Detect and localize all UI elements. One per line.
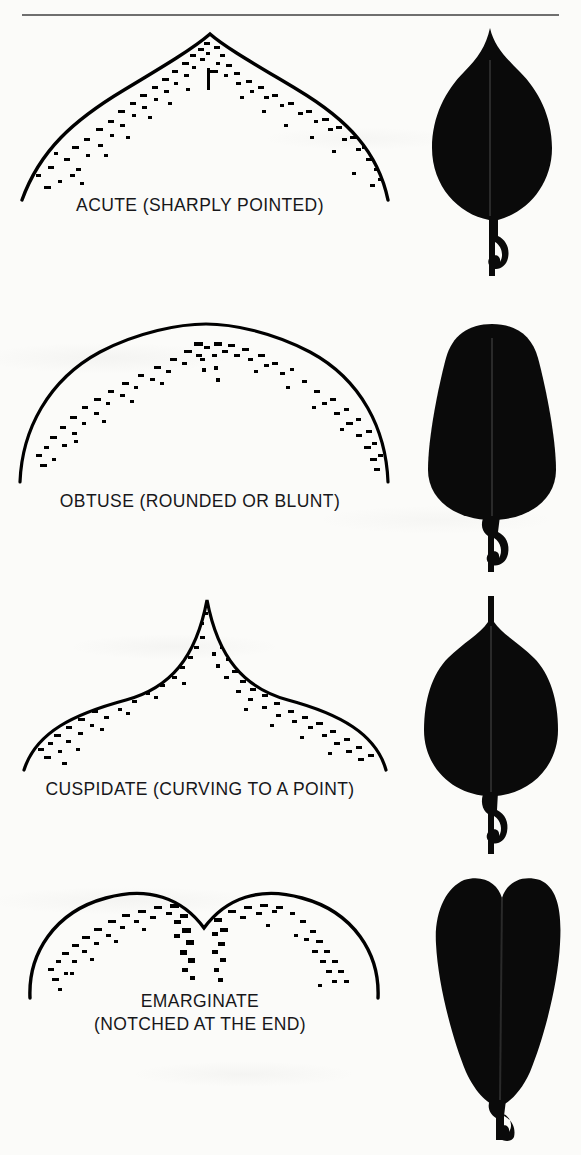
caption-cuspidate-line-1: CUSPIDATE (CURVING TO A POINT) (0, 778, 400, 801)
obtuse-apex-diagram (14, 314, 394, 484)
caption-emarginate-line-1: EMARGINATE (0, 990, 400, 1013)
caption-obtuse-line-1: OBTUSE (ROUNDED OR BLUNT) (0, 490, 400, 513)
figure-row-obtuse: OBTUSE (ROUNDED OR BLUNT) (0, 314, 581, 594)
cuspidate-apex-diagram (14, 596, 394, 774)
figure-row-acute: ACUTE (SHARPLY POINTED) (0, 24, 581, 304)
caption-acute: ACUTE (SHARPLY POINTED) (0, 194, 400, 217)
obtuse-leaf-silhouette (412, 314, 572, 576)
caption-emarginate: EMARGINATE (NOTCHED AT THE END) (0, 990, 400, 1036)
caption-obtuse: OBTUSE (ROUNDED OR BLUNT) (0, 490, 400, 513)
caption-emarginate-line-2: (NOTCHED AT THE END) (0, 1013, 400, 1036)
leaf-apex-reference-page: ACUTE (SHARPLY POINTED) (0, 0, 581, 1155)
figure-row-emarginate: EMARGINATE (NOTCHED AT THE END) (0, 872, 581, 1155)
header-divider-rule (22, 14, 559, 16)
acute-leaf-silhouette (410, 24, 570, 286)
caption-cuspidate: CUSPIDATE (CURVING TO A POINT) (0, 778, 400, 801)
emarginate-apex-diagram (14, 872, 394, 1000)
cuspidate-leaf-silhouette (410, 596, 570, 858)
emarginate-leaf-silhouette (412, 872, 572, 1142)
figure-row-cuspidate: CUSPIDATE (CURVING TO A POINT) (0, 596, 581, 876)
acute-apex-diagram (14, 24, 394, 204)
caption-acute-line-1: ACUTE (SHARPLY POINTED) (0, 194, 400, 217)
